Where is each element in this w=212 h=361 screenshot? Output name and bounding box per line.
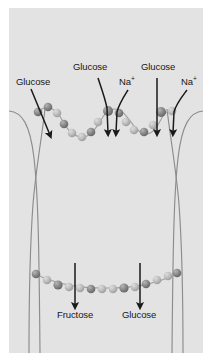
- basolateral-bead: [109, 285, 118, 294]
- membrane-right-inner: [167, 109, 183, 353]
- label-sodium-sglt1-text: Na: [119, 76, 131, 87]
- basolateral-bead: [43, 276, 52, 285]
- basolateral-bead: [32, 270, 41, 279]
- membrane-left-inner: [29, 109, 45, 353]
- basolateral-membrane: [32, 269, 182, 294]
- basolateral-bead: [131, 283, 140, 292]
- apical-bead: [115, 109, 124, 118]
- apical-bead: [53, 109, 62, 118]
- basolateral-bead: [65, 283, 74, 292]
- basolateral-bead: [153, 276, 162, 285]
- apical-bead: [68, 129, 77, 138]
- label-sodium-sglt1: Na+: [119, 77, 135, 87]
- apical-bead-chain: [34, 103, 177, 142]
- basolateral-bead: [142, 280, 151, 289]
- basolateral-bead: [98, 285, 107, 294]
- apical-membrane: [34, 103, 177, 142]
- basolateral-arrows: [75, 263, 140, 306]
- apical-bead: [44, 103, 53, 112]
- label-glucose-apical-left: Glucose: [16, 77, 50, 87]
- label-sodium-sglt1-charge: +: [131, 75, 135, 82]
- apical-bead: [60, 120, 69, 129]
- label-glucose-sglt2: Glucose: [141, 62, 175, 72]
- membrane-right-outer: [172, 111, 203, 353]
- apical-bead: [130, 126, 139, 135]
- label-glucose-sglt1: Glucose: [73, 62, 107, 72]
- lateral-membranes: [9, 109, 203, 353]
- basolateral-bead-glut2-transporter: [119, 283, 128, 292]
- apical-bead: [140, 128, 149, 137]
- label-sodium-sglt2: Na+: [181, 77, 197, 87]
- membrane-left-outer: [9, 111, 40, 353]
- label-fructose-basolateral: Fructose: [57, 310, 93, 320]
- diagram-panel: Glucose Glucose Na+ Glucose Na+ Fructose…: [9, 8, 203, 353]
- label-sodium-sglt2-text: Na: [181, 76, 193, 87]
- label-sodium-sglt2-charge: +: [193, 75, 197, 82]
- membrane-transport-illustration: [9, 8, 203, 353]
- basolateral-bead-glut5-transporter: [53, 280, 62, 289]
- apical-bead: [122, 118, 131, 127]
- basolateral-bead: [76, 284, 85, 293]
- basolateral-bead: [173, 269, 182, 278]
- basolateral-bead: [87, 285, 96, 294]
- basolateral-bead: [164, 272, 173, 281]
- label-glucose-basolateral: Glucose: [122, 310, 156, 320]
- apical-bead: [94, 118, 103, 127]
- apical-bead: [87, 128, 96, 137]
- apical-bead: [149, 121, 158, 130]
- apical-bead: [78, 133, 87, 142]
- figure-root: Glucose Glucose Na+ Glucose Na+ Fructose…: [0, 0, 212, 361]
